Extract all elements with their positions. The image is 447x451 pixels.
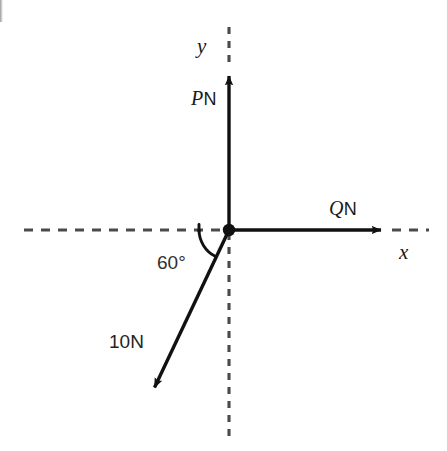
- x-axis-label: x: [399, 242, 408, 263]
- vector-Q-unit: N: [344, 199, 357, 219]
- vector-Q-symbol: Q: [329, 197, 344, 219]
- force-diagram: y x PN QN 60° 10N: [0, 0, 447, 451]
- vector-Q-label: QN: [329, 198, 357, 218]
- origin-point: [223, 224, 235, 236]
- y-axis-label: y: [197, 36, 206, 57]
- vector-P-symbol: P: [191, 87, 203, 109]
- vector-P-label: PN: [191, 88, 217, 108]
- force-diagram-canvas: [0, 0, 447, 451]
- angle-arc-60: [199, 230, 215, 256]
- vector-P-unit: N: [203, 89, 216, 109]
- vector-10N-label: 10N: [109, 332, 144, 351]
- angle-label: 60°: [157, 253, 186, 272]
